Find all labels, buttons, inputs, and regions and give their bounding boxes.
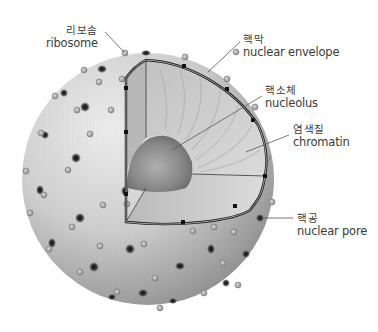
label-nucleolus-english: nucleolus bbox=[265, 97, 318, 110]
label-nuclear-envelope-english: nuclear envelope bbox=[243, 46, 339, 59]
label-nuclear-pore-english: nuclear pore bbox=[297, 225, 367, 238]
label-chromatin: 염색질 chromatin bbox=[293, 123, 350, 149]
cutaway-section bbox=[124, 60, 267, 224]
label-nuclear-pore: 핵공 nuclear pore bbox=[297, 212, 367, 238]
label-ribosome-english: ribosome bbox=[46, 37, 98, 50]
label-chromatin-english: chromatin bbox=[293, 136, 350, 149]
label-ribosome: 리보솜 ribosome bbox=[46, 24, 98, 50]
label-nucleolus: 핵소체 nucleolus bbox=[265, 84, 318, 110]
label-nuclear-envelope: 핵막 nuclear envelope bbox=[243, 33, 339, 59]
